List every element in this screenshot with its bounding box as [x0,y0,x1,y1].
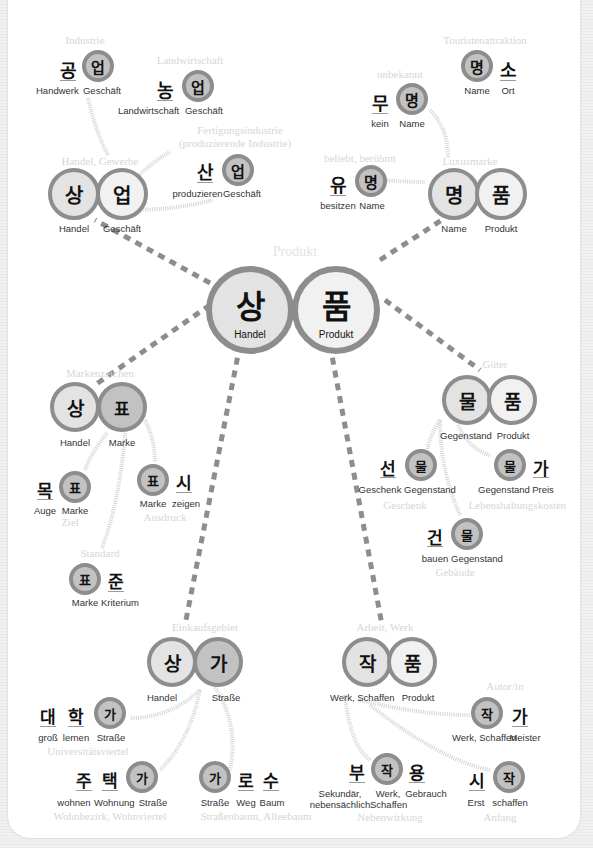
caption-pyojun: Standard [70,547,130,559]
gloss: Auge [30,505,60,516]
hanja-char: 상 [164,649,181,676]
gloss: Kriterium [100,597,140,608]
geonmul-circle: 물 [451,518,483,550]
hanja-char: 산 [195,158,215,184]
hanja-char: 작 [481,704,493,723]
hanja-char: 물 [415,456,427,475]
yumyeong-circle: 명 [355,165,387,197]
gloss: Name [457,85,497,96]
seonmul-circle: 물 [405,449,437,481]
underline [409,782,425,783]
garosu-circle: 가 [199,761,231,793]
underline [40,726,56,727]
hanja-char: 부 [347,759,367,784]
underline [263,790,279,791]
gloss: Handwerk [36,85,76,96]
caption-sangga: Einkaufsgebiet [160,621,250,633]
gloss: Produkt [400,692,436,703]
hanja-char: 물 [459,387,476,414]
underline [108,591,124,592]
caption-saneop-2: (produzierende Industrie) [160,137,310,149]
mokpyo-circle: 표 [59,471,91,503]
caption-sangpyo: Markenzeichen [55,367,145,379]
gloss: Preis [530,484,556,495]
gloss: Geschäft [80,85,124,96]
mulpum-right-circle: 품 [487,375,537,425]
gloss: Geschenk [358,484,402,495]
underline [469,790,485,791]
gloss: Landwirtschaft [118,105,178,116]
gloss: Marke [102,437,142,448]
caption-geonmul: Gebäude [430,566,480,578]
gloss: Ort [498,85,518,96]
hanja-char: 택 [100,767,120,792]
caption-mulpum: Güter [470,358,520,370]
gloss: Gegenstand [449,553,505,564]
hanja-char: 상 [236,281,265,327]
hanja-char: 품 [404,649,421,676]
center-caption: Produkt [240,244,350,260]
underline [157,100,173,101]
hanja-char: 가 [136,768,148,787]
caption-mumyeong: unbekannt [360,68,440,80]
caption-bujakyong: Nebenwirkung [345,811,435,823]
caption-myeongpum: Luxusmarke [430,155,510,167]
underline [330,195,346,196]
hanja-char: 상 [65,180,83,209]
hanja-char: 물 [504,456,516,475]
caption-mokpyo: Ziel [50,516,90,528]
caption-gongeop: Industrie [40,34,130,46]
underline [102,790,118,791]
hanja-char: 유 [328,171,348,197]
gloss: Handel [55,437,95,448]
caption-jutaekga: Wohnbezirk, Wohnviertel [40,810,180,822]
hanja-char: 물 [461,525,473,544]
hanja-char: 표 [69,478,81,497]
underline [197,182,213,183]
gloss: Produkt [319,329,353,340]
underline [37,499,53,500]
underline [380,477,396,478]
gloss: Werk, Schaffen [370,788,406,810]
gloss: Straße [136,797,170,808]
center-pum-circle: 품 Produkt [292,266,380,354]
gloss: Handel [234,329,266,340]
hanja-char: 공 [58,56,78,82]
caption-garosu: Straßenbaum, Alleebaum [186,810,326,822]
hanja-char: 가 [104,704,116,723]
hanja-char: 업 [113,180,131,209]
hanja-char: 표 [147,471,159,490]
sangga-right-circle: 가 [193,637,243,687]
hanja-char: 품 [322,281,351,327]
sangeop-right-circle: 업 [96,168,148,220]
gloss: Name [434,223,474,234]
gloss: schaffen [490,797,530,808]
underline [349,782,365,783]
underline [512,726,528,727]
mumyeong-circle: 명 [396,83,428,115]
gloss: Produkt [493,430,533,441]
jakpum-left-circle: 작 [342,637,392,687]
gloss: Werk, Schaffen [330,692,394,703]
hanja-char: 가 [510,703,530,728]
gloss: Marke [57,505,93,516]
hanja-char: 시 [174,469,194,494]
hanja-char: 소 [498,56,518,82]
hanja-char: 학 [66,703,86,728]
sangga-left-circle: 상 [147,637,197,687]
myeongpum-right-circle: 품 [475,168,527,220]
hanja-char: 농 [155,76,175,102]
hanja-char: 상 [67,394,84,421]
gloss: Erst [464,797,488,808]
gloss: Handel [142,692,182,703]
hanja-char: 가 [210,649,227,676]
hanja-char: 명 [405,89,419,110]
hanja-char: 명 [364,171,378,192]
sangpyo-right-circle: 표 [97,382,147,432]
myeongso-circle: 명 [461,50,493,82]
caption-nongeop: Landwirtschaft [140,54,240,66]
gloss: Straße [208,692,244,703]
hanja-char: 준 [106,568,126,593]
mulga-circle: 물 [494,449,526,481]
hanja-char: 명 [470,56,484,77]
